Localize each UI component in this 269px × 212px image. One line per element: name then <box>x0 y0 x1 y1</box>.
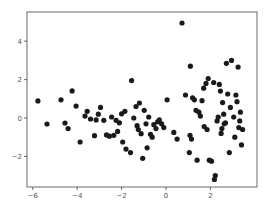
data-point <box>188 64 193 69</box>
data-point <box>145 145 150 150</box>
data-point <box>221 112 226 117</box>
data-point <box>140 156 145 161</box>
x-tick-label: 0 <box>164 192 168 200</box>
y-tick-label: −2 <box>12 153 22 161</box>
data-point <box>219 131 224 136</box>
data-point <box>199 98 204 103</box>
data-point <box>143 121 148 126</box>
data-point <box>128 150 133 155</box>
data-point <box>231 114 236 119</box>
data-point <box>70 88 75 93</box>
data-point <box>192 97 197 102</box>
data-point <box>236 65 241 70</box>
data-point <box>115 129 120 134</box>
data-point <box>239 142 244 147</box>
data-point <box>92 133 97 138</box>
data-point <box>213 173 218 178</box>
x-axis: −6−4−202 <box>28 187 213 200</box>
data-point <box>94 117 99 122</box>
data-point <box>96 112 101 117</box>
data-point <box>175 137 180 142</box>
data-point <box>225 91 230 96</box>
data-point <box>198 114 203 119</box>
data-point <box>161 125 166 130</box>
data-point <box>238 110 243 115</box>
data-point <box>120 139 125 144</box>
data-point <box>237 118 242 123</box>
y-tick-label: 2 <box>18 76 22 84</box>
data-point <box>234 99 239 104</box>
data-point <box>78 139 83 144</box>
data-point <box>88 116 93 121</box>
data-point <box>216 114 221 119</box>
data-point <box>229 58 234 63</box>
data-point <box>35 98 40 103</box>
data-point <box>171 130 176 135</box>
data-point <box>165 97 170 102</box>
data-point <box>85 109 90 114</box>
data-point <box>122 109 127 114</box>
y-axis: −2024 <box>12 38 27 161</box>
data-point <box>82 114 87 119</box>
scatter-chart: −6−4−202 −2024 <box>0 0 269 212</box>
data-point <box>217 82 222 87</box>
data-point <box>62 120 67 125</box>
data-point <box>74 104 79 109</box>
data-point <box>240 127 245 132</box>
data-point <box>150 135 155 140</box>
data-point <box>101 118 106 123</box>
data-point <box>137 100 142 105</box>
data-point <box>44 121 49 126</box>
data-point <box>189 137 194 142</box>
data-point <box>227 150 232 155</box>
data-point <box>131 115 136 120</box>
x-tick-label: −2 <box>116 192 126 200</box>
x-tick-label: −4 <box>72 192 83 200</box>
y-tick-label: 0 <box>18 115 22 123</box>
data-point <box>209 159 214 164</box>
data-point <box>201 86 206 91</box>
data-point <box>142 108 147 113</box>
data-point <box>211 80 216 85</box>
data-point <box>187 150 192 155</box>
data-point <box>203 81 208 86</box>
data-point <box>129 78 134 83</box>
data-point <box>139 131 144 136</box>
data-point <box>117 120 122 125</box>
data-point <box>228 105 233 110</box>
data-point <box>179 20 184 25</box>
data-point <box>219 126 224 131</box>
x-tick-label: −6 <box>28 192 39 200</box>
data-point <box>123 147 128 152</box>
data-point <box>109 114 114 119</box>
data-point <box>195 158 200 163</box>
data-points <box>35 20 245 182</box>
data-point <box>206 76 211 81</box>
data-point <box>146 114 151 119</box>
data-point <box>218 89 223 94</box>
data-point <box>232 135 237 140</box>
data-point <box>223 120 228 125</box>
data-point <box>107 134 112 139</box>
data-point <box>220 100 225 105</box>
data-point <box>66 126 71 131</box>
data-point <box>153 126 158 131</box>
data-point <box>58 97 63 102</box>
x-tick-label: 2 <box>208 192 212 200</box>
y-tick-label: 4 <box>18 38 23 46</box>
data-point <box>205 127 210 132</box>
data-point <box>183 92 188 97</box>
data-point <box>98 105 103 110</box>
data-point <box>224 61 229 66</box>
data-point <box>233 92 238 97</box>
data-point <box>111 133 116 138</box>
